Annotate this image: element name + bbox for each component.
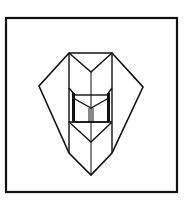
top-chevron	[69, 53, 112, 72]
left-shadow-bar	[72, 93, 75, 121]
shield-emblem-diagram	[0, 0, 186, 200]
right-shadow-bar	[107, 93, 110, 121]
